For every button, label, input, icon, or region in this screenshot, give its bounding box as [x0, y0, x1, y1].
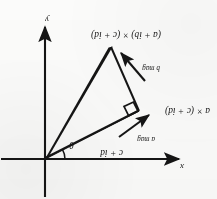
label-vector-c-id: c + id: [100, 148, 123, 158]
label-vector-product: (a + ib) × (c + id): [91, 30, 161, 40]
angle-arc-theta: [62, 149, 65, 159]
angle-label-theta: θ: [69, 140, 74, 150]
label-scale-b: b mag: [142, 64, 160, 71]
figure-canvas: x y θ c + id a × (c + id) (a + ib) × (c …: [0, 0, 217, 199]
y-axis-label: y: [45, 15, 49, 24]
vector-product: [45, 47, 113, 160]
x-axis-label: x: [180, 162, 184, 171]
vector-c-id: [45, 109, 139, 159]
label-scale-a: a mag: [137, 135, 155, 142]
label-vector-a-times-c-id: a × (c + id): [165, 106, 210, 116]
